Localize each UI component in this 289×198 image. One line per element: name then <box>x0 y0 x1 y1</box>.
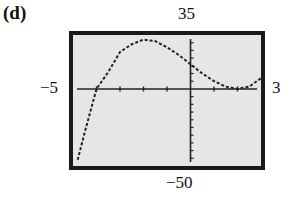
y-min-label: −50 <box>166 173 193 193</box>
x-max-label: 3 <box>272 78 281 98</box>
plot-area <box>73 35 261 166</box>
y-max-label: 35 <box>178 4 195 24</box>
curve-line <box>78 40 261 160</box>
axes <box>77 39 257 162</box>
panel-label: (d) <box>3 2 26 24</box>
plot-frame <box>69 31 265 170</box>
x-min-label: −5 <box>40 78 58 98</box>
